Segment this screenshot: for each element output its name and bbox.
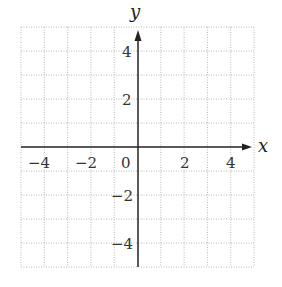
coordinate-plane: x y −4 −2 0 2 4 4 2 −2 −4 — [0, 0, 282, 287]
y-tick-label: −4 — [111, 235, 133, 253]
y-axis-label: y — [129, 1, 141, 22]
y-tick-label: −2 — [111, 187, 133, 205]
x-axis-label: x — [258, 135, 268, 156]
x-tick-label: 0 — [121, 154, 131, 172]
x-tick-labels: −4 −2 0 2 4 — [28, 154, 236, 172]
x-tick-label: 4 — [226, 154, 236, 172]
x-axis-arrow-icon — [242, 144, 252, 151]
x-axis — [21, 144, 252, 151]
x-tick-label: −4 — [28, 154, 50, 172]
x-tick-label: −2 — [75, 154, 97, 172]
x-tick-label: 2 — [180, 154, 190, 172]
y-axis-arrow-icon — [135, 30, 142, 41]
y-tick-label: 4 — [122, 43, 132, 61]
y-axis — [135, 30, 142, 267]
y-tick-label: 2 — [122, 91, 132, 109]
